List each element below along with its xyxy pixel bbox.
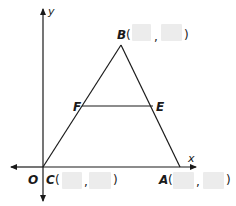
point-e-label: E (156, 101, 164, 113)
point-b-x-blank[interactable] (132, 24, 151, 41)
x-axis-label: x (188, 153, 195, 165)
y-axis-label: y (48, 6, 55, 18)
point-a-open-paren: ( (168, 174, 173, 186)
origin-label: O (28, 174, 38, 186)
point-b-close-paren: ) (184, 29, 189, 41)
point-a-x-blank[interactable] (173, 172, 194, 189)
point-c-label: C (46, 174, 55, 186)
point-a-comma: , (196, 176, 200, 188)
point-a-close-paren: ) (226, 174, 231, 186)
point-f-label: F (73, 101, 81, 113)
point-c-close-paren: ) (113, 174, 118, 186)
point-c-comma: , (84, 176, 88, 188)
point-b-open-paren: ( (126, 29, 131, 41)
point-a-label: A (159, 174, 168, 186)
point-c-x-blank[interactable] (62, 172, 82, 189)
point-b-y-blank[interactable] (161, 24, 182, 41)
point-c-y-blank[interactable] (89, 172, 111, 189)
point-c-open-paren: ( (55, 174, 60, 186)
point-a-y-blank[interactable] (203, 172, 224, 189)
point-b-comma: , (154, 31, 158, 43)
point-b-label: B (117, 29, 126, 41)
